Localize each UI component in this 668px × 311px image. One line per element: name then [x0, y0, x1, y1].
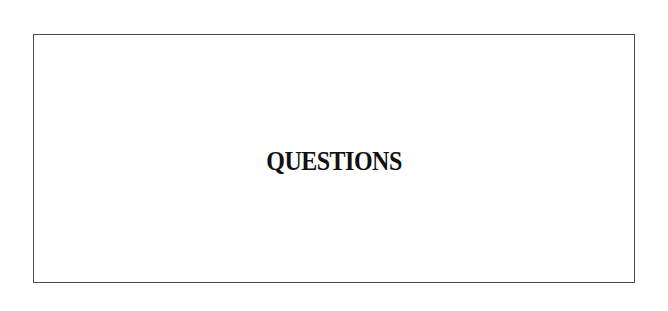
page-title: QUESTIONS	[0, 143, 668, 179]
